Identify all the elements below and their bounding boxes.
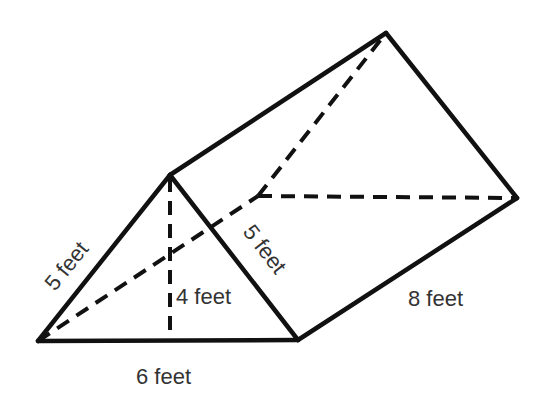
label-length: 8 feet	[408, 286, 463, 311]
prism-diagram: 5 feet 5 feet 4 feet 6 feet 8 feet	[0, 0, 542, 399]
label-left-side: 5 feet	[39, 237, 93, 296]
hidden-edge-back-left-to-back-apex	[258, 33, 386, 196]
hidden-edge-back-base	[258, 196, 517, 198]
label-height: 4 feet	[176, 284, 231, 309]
edge-top-ridge	[170, 33, 386, 175]
edge-back-right-side	[386, 33, 517, 198]
edge-bottom-right	[298, 198, 517, 340]
edge-front-base	[38, 340, 298, 341]
label-base: 6 feet	[136, 364, 191, 389]
